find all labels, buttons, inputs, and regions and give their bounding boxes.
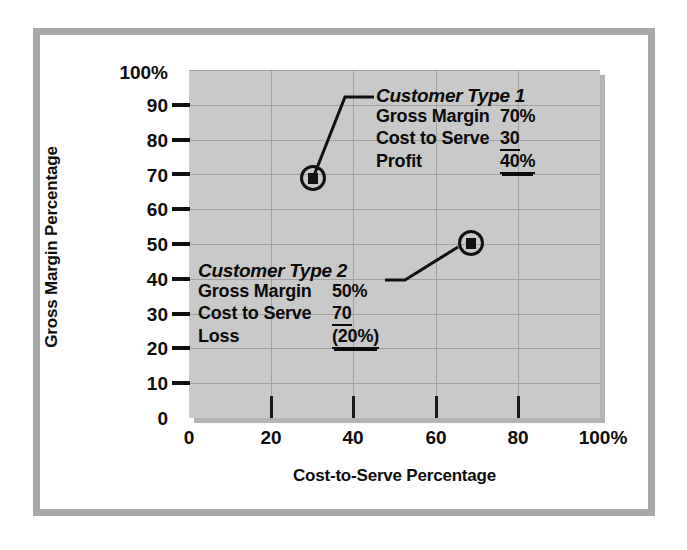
callout-customer-type-2: Customer Type 2 Gross Margin 50% Cost to… <box>198 260 412 349</box>
ytick-mark-30 <box>172 312 190 316</box>
ytick-label-90: 90 <box>98 96 168 115</box>
gridline-y-60 <box>189 209 600 210</box>
callout-1-row-profit: Profit 40% <box>376 151 570 174</box>
callout-1-profit-value: 40% <box>500 151 570 174</box>
xtick-mark-40 <box>352 396 355 418</box>
data-point-customer-type-1[interactable] <box>300 165 326 191</box>
callout-2-loss-value: (20%) <box>332 326 412 349</box>
ytick-label-100: 100% <box>98 63 168 82</box>
callout-2-gross-margin-label: Gross Margin <box>198 281 332 302</box>
x-axis-title: Cost-to-Serve Percentage <box>189 466 600 486</box>
xtick-label-100: 100% <box>563 428 643 447</box>
gridline-y-50 <box>189 244 600 245</box>
callout-2-loss-value-text: (20%) <box>332 326 379 349</box>
data-point-customer-type-2[interactable] <box>458 230 484 256</box>
ytick-label-40: 40 <box>98 270 168 289</box>
callout-2-gross-margin-value: 50% <box>332 281 412 302</box>
y-axis-tick-labels: 100% 90 80 70 60 50 40 30 20 10 0 <box>98 0 168 550</box>
callout-1-profit-label: Profit <box>376 151 500 174</box>
y-axis-title: Gross Margin Percentage <box>42 97 62 397</box>
ytick-mark-40 <box>172 277 190 281</box>
callout-1-gross-margin-value: 70% <box>500 106 570 127</box>
callout-1-title: Customer Type 1 <box>376 85 570 106</box>
callout-2-gross-margin-value-text: 50% <box>332 281 367 302</box>
ytick-mark-60 <box>172 207 190 211</box>
ytick-label-30: 30 <box>98 305 168 324</box>
ytick-mark-10 <box>172 381 190 385</box>
callout-2-row-loss: Loss (20%) <box>198 326 412 349</box>
ytick-label-50: 50 <box>98 235 168 254</box>
ytick-mark-50 <box>172 242 190 246</box>
ytick-label-70: 70 <box>98 166 168 185</box>
callout-1-cost-to-serve-label: Cost to Serve <box>376 128 500 151</box>
callout-1-cost-to-serve-value-text: 30 <box>500 128 520 151</box>
callout-2-cost-to-serve-label: Cost to Serve <box>198 303 332 326</box>
gridline-y-70 <box>189 174 600 175</box>
ytick-label-60: 60 <box>98 200 168 219</box>
callout-1-profit-value-text: 40% <box>500 151 535 174</box>
xtick-label-20: 20 <box>231 428 311 447</box>
callout-2-cost-to-serve-value: 70 <box>332 303 412 326</box>
callout-2-cost-to-serve-value-text: 70 <box>332 303 352 326</box>
ytick-mark-70 <box>172 172 190 176</box>
ytick-label-80: 80 <box>98 131 168 150</box>
xtick-mark-80 <box>517 396 520 418</box>
gridline-x-20 <box>271 70 272 418</box>
ytick-label-20: 20 <box>98 339 168 358</box>
gridline-y-100 <box>189 70 600 71</box>
gridline-x-40 <box>353 70 354 418</box>
callout-customer-type-1: Customer Type 1 Gross Margin 70% Cost to… <box>376 85 570 174</box>
callout-2-row-cost-to-serve: Cost to Serve 70 <box>198 303 412 326</box>
xtick-label-0: 0 <box>149 428 229 447</box>
callout-1-gross-margin-value-text: 70% <box>500 106 535 127</box>
callout-1-cost-to-serve-value: 30 <box>500 128 570 151</box>
ytick-label-10: 10 <box>98 374 168 393</box>
callout-1-gross-margin-label: Gross Margin <box>376 106 500 127</box>
chart-figure: 100% 90 80 70 60 50 40 30 20 10 0 0 20 4… <box>0 0 687 550</box>
xtick-label-60: 60 <box>396 428 476 447</box>
ytick-mark-80 <box>172 138 190 142</box>
xtick-label-80: 80 <box>478 428 558 447</box>
callout-2-row-gross-margin: Gross Margin 50% <box>198 281 412 302</box>
callout-1-row-cost-to-serve: Cost to Serve 30 <box>376 128 570 151</box>
ytick-mark-90 <box>172 103 190 107</box>
ytick-label-0: 0 <box>98 409 168 428</box>
callout-2-loss-label: Loss <box>198 326 332 349</box>
gridline-y-10 <box>189 383 600 384</box>
ytick-mark-20 <box>172 346 190 350</box>
xtick-mark-60 <box>435 396 438 418</box>
xtick-mark-20 <box>270 396 273 418</box>
xtick-label-40: 40 <box>313 428 393 447</box>
callout-2-title: Customer Type 2 <box>198 260 412 281</box>
callout-1-row-gross-margin: Gross Margin 70% <box>376 106 570 127</box>
